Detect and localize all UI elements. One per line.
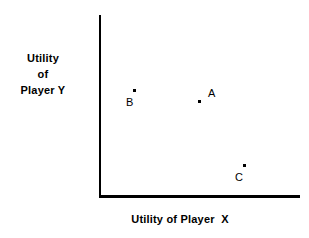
data-point-label-c: C <box>235 172 243 183</box>
data-point-marker-c <box>243 164 246 167</box>
data-point-label-b: B <box>126 97 133 108</box>
x-axis-line <box>99 195 300 198</box>
x-axis-title: Utility of Player X <box>99 213 261 225</box>
y-axis-title-line-2: of <box>8 66 78 82</box>
data-point-marker-a <box>198 100 201 103</box>
utility-plot-figure: Utility of Player Y Utility of Player X … <box>0 0 309 238</box>
y-axis-line <box>99 15 101 198</box>
data-point-marker-b <box>133 89 136 92</box>
data-point-label-a: A <box>208 88 215 99</box>
y-axis-title-line-1: Utility <box>8 50 78 66</box>
y-axis-title-line-3: Player Y <box>8 82 78 98</box>
y-axis-title: Utility of Player Y <box>8 50 78 98</box>
